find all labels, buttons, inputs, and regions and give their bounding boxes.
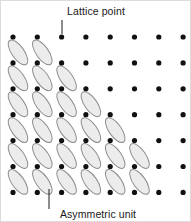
lattice-point — [35, 190, 40, 195]
lattice-point — [83, 112, 88, 117]
lattice-point — [35, 138, 40, 143]
lattice-point — [132, 190, 137, 195]
lattice-point — [83, 190, 88, 195]
lattice-point — [59, 190, 64, 195]
lattice-point — [108, 164, 113, 169]
asymmetric-unit — [5, 37, 32, 68]
asymmetric-unit — [53, 115, 80, 146]
diagram-canvas: Lattice pointAsymmetric unit — [1, 1, 191, 222]
lattice-point — [35, 60, 40, 65]
asymmetric-unit — [78, 141, 105, 172]
lattice-point — [108, 112, 113, 117]
asymmetric-unit — [29, 141, 56, 172]
lattice-point — [83, 164, 88, 169]
lattice-point — [181, 34, 186, 39]
lattice-point — [83, 60, 88, 65]
lattice-point — [132, 138, 137, 143]
asymmetric-unit — [102, 166, 129, 197]
lattice-point — [132, 164, 137, 169]
asymmetric-unit — [5, 89, 32, 120]
lattice-diagram: Lattice pointAsymmetric unit — [0, 0, 191, 222]
asymmetric-unit-label: Asymmetric unit — [60, 208, 136, 220]
asymmetric-unit — [53, 63, 80, 94]
lattice-point — [35, 164, 40, 169]
asymmetric-unit — [5, 63, 32, 94]
lattice-point — [59, 60, 64, 65]
asymmetric-unit — [53, 141, 80, 172]
lattice-point — [35, 112, 40, 117]
asymmetric-unit — [78, 89, 105, 120]
lattice-point — [59, 112, 64, 117]
asymmetric-unit — [5, 115, 32, 146]
asymmetric-unit — [29, 89, 56, 120]
lattice-point — [35, 34, 40, 39]
lattice-point — [35, 86, 40, 91]
lattice-point — [156, 86, 161, 91]
asymmetric-unit — [5, 141, 32, 172]
asymmetric-unit — [126, 141, 153, 172]
lattice-point-label: Lattice point — [67, 5, 125, 17]
lattice-point — [156, 60, 161, 65]
lattice-point — [108, 34, 113, 39]
lattice-point — [156, 164, 161, 169]
lattice-point — [181, 60, 186, 65]
lattice-point — [59, 86, 64, 91]
lattice-point — [59, 138, 64, 143]
asymmetric-unit — [29, 166, 56, 197]
lattice-point — [132, 112, 137, 117]
asymmetric-units-layer — [5, 37, 153, 197]
lattice-point — [132, 60, 137, 65]
lattice-point — [156, 190, 161, 195]
lattice-point — [10, 112, 15, 117]
asymmetric-unit — [29, 63, 56, 94]
lattice-point — [156, 112, 161, 117]
asymmetric-unit — [29, 115, 56, 146]
asymmetric-unit — [29, 37, 56, 68]
lattice-point — [181, 164, 186, 169]
asymmetric-unit — [53, 89, 80, 120]
asymmetric-unit — [5, 166, 32, 197]
lattice-point — [108, 86, 113, 91]
lattice-point — [10, 190, 15, 195]
lattice-point — [10, 60, 15, 65]
lattice-point — [132, 86, 137, 91]
lattice-point — [181, 112, 186, 117]
lattice-point — [156, 138, 161, 143]
asymmetric-unit — [53, 166, 80, 197]
lattice-point — [10, 138, 15, 143]
lattice-point — [83, 34, 88, 39]
lattice-point — [59, 34, 64, 39]
asymmetric-unit — [78, 115, 105, 146]
lattice-point — [108, 138, 113, 143]
asymmetric-unit — [126, 166, 153, 197]
lattice-point — [83, 138, 88, 143]
lattice-point — [181, 190, 186, 195]
asymmetric-unit — [78, 166, 105, 197]
lattice-point — [10, 164, 15, 169]
lattice-point — [10, 86, 15, 91]
lattice-point — [59, 164, 64, 169]
lattice-point — [181, 86, 186, 91]
lattice-point — [83, 86, 88, 91]
lattice-point — [132, 34, 137, 39]
asymmetric-unit — [102, 141, 129, 172]
asymmetric-unit — [102, 115, 129, 146]
lattice-point — [108, 60, 113, 65]
lattice-point — [10, 34, 15, 39]
lattice-point — [156, 34, 161, 39]
lattice-point — [181, 138, 186, 143]
lattice-point — [108, 190, 113, 195]
